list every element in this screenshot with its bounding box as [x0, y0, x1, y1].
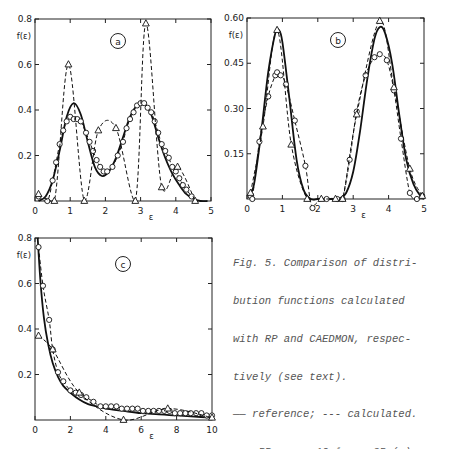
circle-marker	[47, 317, 52, 322]
caption-line: with RP and CAEDMON, respec-	[233, 333, 448, 346]
circle-marker	[347, 157, 352, 162]
x-tick-label: 4	[173, 206, 179, 216]
circle-marker	[124, 126, 129, 131]
chart-panel-b: 0123450.150.300.450.60f(ε)εb	[224, 13, 427, 220]
x-tick-label: 6	[138, 425, 144, 435]
caption-line: tively (see text).	[233, 371, 448, 384]
panel-label: b	[335, 36, 341, 46]
x-tick-label: 8	[174, 425, 180, 435]
y-axis-label: f(ε)	[229, 30, 243, 40]
y-tick-label: 0.4	[18, 324, 33, 334]
x-tick-label: 5	[421, 204, 427, 214]
chart-panel-a: 0123450.20.40.60.8f(ε)εa	[17, 14, 214, 222]
triangle-marker	[95, 127, 102, 133]
x-axis-label: ε	[149, 431, 154, 441]
circle-marker	[146, 408, 151, 413]
y-tick-label: 0.45	[224, 58, 244, 68]
y-tick-label: 0.8	[18, 14, 33, 24]
series-line	[39, 24, 196, 202]
y-axis-label: f(ε)	[17, 250, 31, 260]
circle-marker	[142, 101, 147, 106]
triangle-marker	[158, 184, 165, 190]
circle-marker	[36, 245, 41, 250]
circle-marker	[119, 406, 124, 411]
circle-marker	[50, 178, 55, 183]
x-tick-label: 5	[208, 206, 214, 216]
triangle-marker	[35, 190, 42, 196]
circle-marker	[109, 404, 114, 409]
circle-marker	[98, 164, 103, 169]
circle-marker	[257, 139, 262, 144]
series-line	[39, 247, 213, 415]
triangle-marker	[35, 332, 42, 338]
x-tick-label: 2	[315, 204, 321, 214]
triangle-marker	[81, 197, 88, 203]
circle-marker	[303, 163, 308, 168]
circle-marker	[105, 169, 110, 174]
circle-marker	[55, 370, 60, 375]
circle-marker	[180, 182, 185, 187]
circle-marker	[61, 379, 66, 384]
circle-marker	[94, 157, 99, 162]
circle-marker	[250, 196, 255, 201]
x-tick-label: 3	[138, 206, 144, 216]
triangle-marker	[142, 20, 149, 26]
y-tick-label: 0.8	[18, 233, 33, 243]
circle-marker	[130, 406, 135, 411]
circle-marker	[163, 148, 168, 153]
circle-marker	[40, 283, 45, 288]
circle-marker	[283, 82, 288, 87]
circle-marker	[64, 119, 69, 124]
caption-line: bution functions calculated	[233, 295, 448, 308]
triangle-marker	[113, 124, 120, 130]
circle-marker	[135, 406, 140, 411]
circle-marker	[114, 404, 119, 409]
circle-marker	[127, 117, 132, 122]
circle-marker	[159, 142, 164, 147]
circle-marker	[78, 119, 83, 124]
x-axis-label: ε	[149, 212, 154, 222]
panel-label: a	[115, 37, 121, 47]
circle-marker	[384, 58, 389, 63]
circle-marker	[172, 411, 177, 416]
circle-marker	[120, 139, 125, 144]
x-tick-label: 4	[386, 204, 392, 214]
y-axis-label: f(ε)	[17, 31, 31, 41]
circle-marker	[115, 153, 120, 158]
figure-caption: Fig. 5. Comparison of distri- bution fun…	[233, 232, 448, 449]
circle-marker	[124, 406, 129, 411]
x-axis-label: ε	[361, 210, 366, 220]
y-tick-label: 0.6	[18, 279, 33, 289]
circle-marker	[87, 139, 92, 144]
y-tick-label: 0.30	[224, 104, 244, 114]
x-tick-label: 0	[32, 425, 38, 435]
y-tick-label: 0.2	[18, 151, 32, 161]
circle-marker	[177, 176, 182, 181]
triangle-marker	[65, 61, 72, 67]
y-tick-label: 0.2	[18, 370, 32, 380]
circle-marker	[140, 408, 145, 413]
circle-marker	[372, 55, 377, 60]
x-tick-label: 4	[103, 425, 109, 435]
y-tick-label: 0.15	[224, 149, 244, 159]
circle-marker	[414, 196, 419, 201]
circle-marker	[131, 110, 136, 115]
triangle-marker	[51, 197, 58, 203]
y-tick-label: 0.60	[224, 13, 244, 23]
circle-marker	[166, 155, 171, 160]
circle-marker	[377, 52, 382, 57]
panel-label: c	[121, 260, 126, 270]
circle-marker	[278, 73, 283, 78]
x-tick-label: 0	[32, 206, 38, 216]
circle-marker	[110, 164, 115, 169]
x-tick-label: 1	[280, 204, 286, 214]
caption-line: Fig. 5. Comparison of distri-	[233, 257, 448, 270]
circle-marker	[54, 160, 59, 165]
circle-marker	[184, 187, 189, 192]
circle-marker	[178, 411, 183, 416]
circle-marker	[310, 205, 315, 210]
circle-marker	[83, 130, 88, 135]
x-tick-label: 1	[67, 206, 73, 216]
y-tick-label: 0.4	[18, 105, 33, 115]
legend-line-styles: —— reference; --- calculated.	[233, 408, 448, 421]
